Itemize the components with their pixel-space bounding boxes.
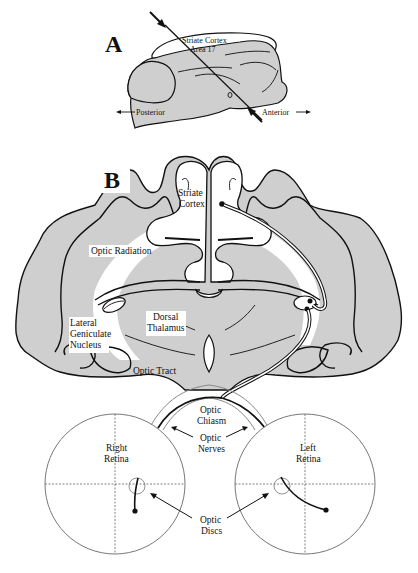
right-retina [45,414,185,554]
posterior-label: Posterior [136,108,165,117]
optic-tract-label: Optic Tract [133,366,176,376]
left-retina [235,414,375,554]
optic-chiasm-label-2: Chiasm [197,416,227,426]
optic-discs-label-1: Optic [200,515,221,525]
lgn-label-3: Nucleus [70,340,101,350]
lgn-neuron-dot [308,299,313,304]
posterior-arrow-icon [116,110,121,114]
optic-radiation-label: Optic Radiation [91,246,152,256]
dorsal-thalamus-label-2: Thalamus [147,323,185,333]
dorsal-thalamus-label-1: Dorsal [153,312,179,322]
left-ganglion-dot [323,507,328,512]
lgn-label-2: Geniculate [70,329,111,339]
visual-pathway-diagram: A Striate Cortex Area 17 Posterior Anter… [0,0,418,573]
panel-b-letter: B [104,167,120,193]
optic-chiasm-label-1: Optic [200,405,221,415]
anterior-arrow-icon [306,110,311,114]
right-retina-label-2: Retina [104,454,130,464]
lgn-label-1: Lateral [70,318,97,328]
optic-nerves-label-2: Nerves [198,444,225,454]
optic-nerves-arrow-left [174,428,193,437]
anterior-label: Anterior [262,108,289,117]
panel-b: B Striate Cortex Optic Radiation Lateral… [16,157,402,555]
area-17-label: Area 17 [190,45,216,54]
striate-cortex-label: Striate Cortex [182,36,227,45]
right-ganglion-dot [132,508,137,513]
optic-discs-label-2: Discs [201,526,222,536]
left-retina-label-1: Left [300,443,316,453]
optic-nerves-arrow-right [226,428,245,437]
optic-nerves-label-1: Optic [200,433,221,443]
left-retina-label-2: Retina [296,454,322,464]
striate-cortex-label-2: Cortex [179,199,205,209]
panel-a: A Striate Cortex Area 17 Posterior Anter… [105,12,311,128]
cerebellum [128,61,175,102]
right-retina-label-1: Right [106,443,127,453]
panel-a-letter: A [105,31,123,57]
striate-cortex-label-1: Striate [178,188,203,198]
